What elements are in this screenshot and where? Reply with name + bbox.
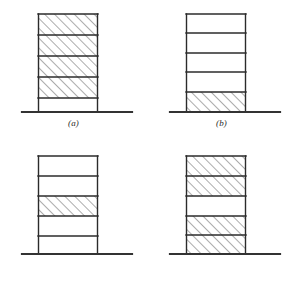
hatched-stories-c xyxy=(38,196,98,216)
hatched-stories-d xyxy=(186,156,246,254)
frame-panel-c: (c) xyxy=(0,142,147,284)
hatched-stories-b xyxy=(186,92,246,112)
story-lines-c xyxy=(38,156,98,236)
frame-panel-a: (a) xyxy=(0,0,147,142)
figure-root: (a) xyxy=(0,0,295,284)
frame-diagram-c xyxy=(0,142,147,284)
frame-panel-b: (b) xyxy=(148,0,295,142)
frame-diagram-d xyxy=(148,142,295,284)
panel-label-b: (b) xyxy=(148,118,295,128)
panel-label-a: (a) xyxy=(0,118,147,128)
frame-panel-d: (d) xyxy=(148,142,295,284)
